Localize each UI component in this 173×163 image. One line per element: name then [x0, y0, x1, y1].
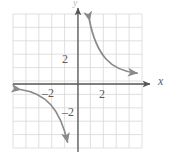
graph-figure: 2 2 –2 –2 x y — [0, 0, 173, 163]
tick-label-y-negative-2: –2 — [62, 106, 74, 118]
x-axis-label: x — [158, 75, 163, 87]
tick-label-x-negative-2: –2 — [42, 87, 54, 99]
coordinate-plane-canvas — [0, 0, 173, 163]
tick-label-x-positive-2: 2 — [99, 88, 105, 100]
curve-branch-quadrant-1 — [90, 21, 138, 74]
tick-label-y-positive-2: 2 — [62, 53, 68, 65]
y-axis-label: y — [73, 0, 77, 8]
